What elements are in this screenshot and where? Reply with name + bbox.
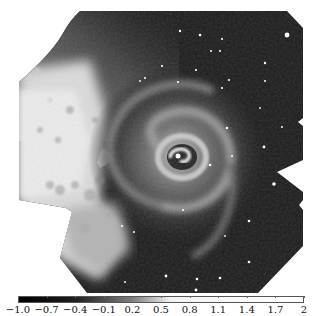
- colorbar-tick: [304, 296, 305, 298]
- colorbar-tick: [18, 296, 19, 298]
- colorbar-tick: [75, 296, 76, 298]
- colorbar-tick: [47, 296, 48, 298]
- galaxy-image: [0, 0, 317, 294]
- colorbar-tick: [132, 296, 133, 298]
- tick-label: 1.7: [267, 304, 283, 316]
- colorbar-tick: [275, 296, 276, 298]
- tick-label: 1.1: [210, 304, 226, 316]
- tick-label: 0.5: [153, 304, 169, 316]
- tick-label: −0.4: [63, 304, 87, 316]
- colorbar-tick: [161, 296, 162, 298]
- tick-label: 1.4: [239, 304, 255, 316]
- tick-label: 0.8: [182, 304, 198, 316]
- figure: −1.0 −0.7 −0.4 −0.1 0.2 0.5 0.8 1.1 1.4 …: [0, 0, 317, 316]
- tick-label: 2: [301, 304, 307, 316]
- tick-label: −0.1: [92, 304, 116, 316]
- colorbar-tick: [218, 296, 219, 298]
- tick-label: 0.2: [124, 304, 140, 316]
- colorbar-tick: [247, 296, 248, 298]
- colorbar-tick: [104, 296, 105, 298]
- tick-label: −1.0: [6, 304, 30, 316]
- tick-label: −0.7: [34, 304, 58, 316]
- colorbar-tick: [190, 296, 191, 298]
- colorbar-tick-labels: −1.0 −0.7 −0.4 −0.1 0.2 0.5 0.8 1.1 1.4 …: [0, 304, 317, 316]
